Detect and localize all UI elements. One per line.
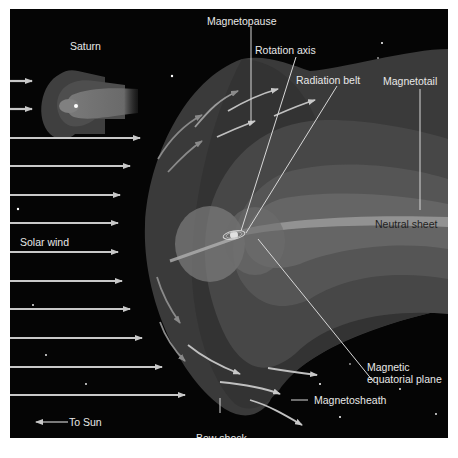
label-to-sun: To Sun <box>69 417 102 428</box>
label-magnetosheath: Magnetosheath <box>314 395 386 406</box>
label-saturn: Saturn <box>70 41 101 52</box>
label-rotation-axis: Rotation axis <box>255 45 316 56</box>
label-magnetotail: Magnetotail <box>383 76 437 87</box>
label-radiation-belt: Radiation belt <box>296 75 360 86</box>
label-bow-shock: Bow shock <box>196 433 247 438</box>
label-magnetic-equatorial-plane-line2: equatorial plane <box>367 374 442 385</box>
saturn-small-magnetosphere <box>41 70 138 139</box>
label-neutral-sheet: Neutral sheet <box>375 219 437 230</box>
label-magnetic-equatorial-plane-line1: Magnetic <box>367 362 410 373</box>
magnetosphere-diagram: Saturn Magnetopause Rotation axis Radiat… <box>10 9 448 438</box>
label-magnetopause: Magnetopause <box>207 16 276 27</box>
label-solar-wind: Solar wind <box>20 237 69 248</box>
